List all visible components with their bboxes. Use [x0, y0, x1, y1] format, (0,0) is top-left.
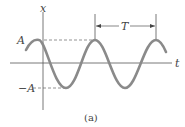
arrowhead-right-icon [150, 24, 155, 28]
oscillation-diagram: x t A −A T (a) [0, 0, 185, 127]
period-label: T [121, 20, 130, 33]
sine-wave [26, 40, 166, 88]
arrowhead-left-icon [96, 24, 101, 28]
t-axis-label: t [175, 57, 180, 70]
amplitude-label-negative: −A [18, 82, 35, 95]
amplitude-label-positive: A [16, 34, 25, 47]
x-axis-label: x [40, 2, 47, 15]
figure-caption: (a) [84, 112, 98, 123]
